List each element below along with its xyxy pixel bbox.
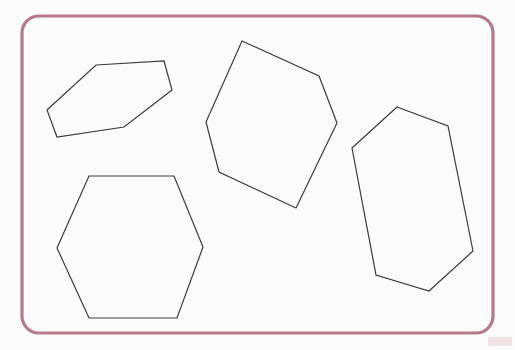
- worksheet-drawing: [0, 0, 515, 350]
- worksheet-canvas: [0, 0, 515, 350]
- page-background: [0, 0, 515, 350]
- pink-scan-smudge: [488, 337, 512, 346]
